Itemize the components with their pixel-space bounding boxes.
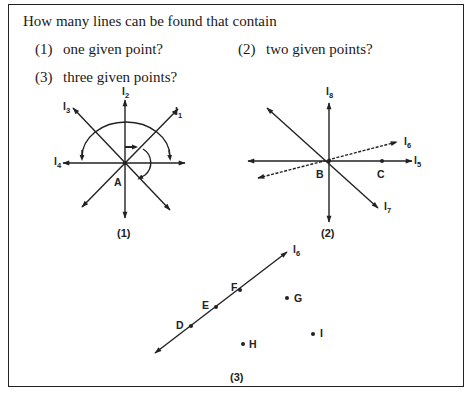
- point-D: [189, 324, 193, 328]
- label-l3: l3: [63, 100, 70, 115]
- label-D: D: [176, 319, 184, 331]
- label-B: B: [316, 168, 324, 180]
- label-F: F: [231, 281, 238, 293]
- line-l1: [82, 109, 178, 207]
- label-l5: l5: [414, 154, 421, 169]
- point-G: [285, 296, 289, 300]
- point-A: [123, 161, 127, 165]
- label-C: C: [377, 168, 385, 180]
- label-E: E: [202, 299, 209, 311]
- caption-figure-2: (2): [321, 227, 335, 239]
- line-l3: [73, 108, 170, 210]
- point-I: [311, 332, 315, 336]
- label-I: I: [320, 327, 323, 339]
- point-E: [214, 305, 218, 309]
- line-l7: [267, 108, 378, 208]
- label-l8: l8: [326, 85, 333, 100]
- label-l7: l7: [384, 200, 391, 215]
- figure-3: [155, 252, 287, 353]
- point-F: [238, 288, 242, 292]
- point-B: [327, 159, 331, 163]
- line-l6-fig3: [155, 252, 287, 353]
- label-l6: l6: [404, 135, 411, 150]
- label-G: G: [294, 292, 302, 304]
- rotation-arrow-right: [169, 150, 170, 158]
- label-l2: l2: [122, 85, 129, 100]
- caption-figure-1: (1): [117, 227, 131, 239]
- label-l6-fig3: l6: [293, 243, 300, 258]
- label-H: H: [249, 338, 257, 350]
- figure-1: [63, 100, 185, 218]
- point-H: [241, 342, 245, 346]
- rotation-arc-upper: [82, 122, 170, 157]
- point-C: [380, 159, 384, 163]
- label-l4: l4: [54, 155, 62, 170]
- label-l1: l1: [175, 105, 182, 120]
- caption-figure-3: (3): [230, 371, 244, 383]
- diagram-canvas: A l1 l2 l3 l4 (1) B C l8 l6 l5 l7 (2) D …: [0, 0, 473, 393]
- label-A: A: [114, 176, 122, 188]
